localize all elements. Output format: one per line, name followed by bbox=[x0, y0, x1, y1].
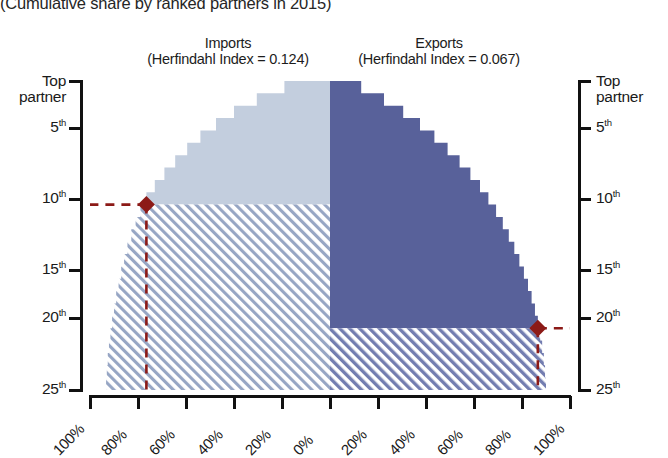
y-tick-right-20 bbox=[579, 317, 591, 320]
x-label-5: 0% bbox=[290, 432, 315, 457]
y-label-left-15: 15th bbox=[0, 261, 66, 277]
x-tick-6 bbox=[377, 396, 380, 409]
x-tick-10 bbox=[569, 396, 572, 409]
y-label-left-10: 10th bbox=[0, 190, 66, 206]
x-tick-1 bbox=[137, 396, 140, 409]
x-label-8: 60% bbox=[434, 427, 465, 458]
chart-subtitle: (Cumulative share by ranked partners in … bbox=[0, 0, 430, 13]
x-label-7: 40% bbox=[386, 427, 417, 458]
imports-area-solid bbox=[146, 81, 330, 205]
plot-svg bbox=[90, 81, 570, 390]
y-tick-left-25 bbox=[69, 389, 81, 392]
exports-title: Exports bbox=[330, 36, 548, 52]
y-tick-left-10 bbox=[69, 198, 81, 201]
x-label-4: 20% bbox=[242, 427, 273, 458]
y-tick-right-25 bbox=[579, 389, 591, 392]
imports-panel-header: Imports (Herfindahl Index = 0.124) bbox=[128, 36, 328, 67]
y-tick-left-15 bbox=[69, 269, 81, 272]
x-tick-4 bbox=[281, 396, 284, 409]
y-tick-left-1 bbox=[69, 80, 81, 83]
y-label-right-5: 5th bbox=[596, 119, 668, 135]
exports-area-hatched bbox=[330, 328, 546, 390]
x-tick-9 bbox=[521, 396, 524, 409]
x-label-0: 100% bbox=[50, 421, 87, 458]
y-label-right-10: 10th bbox=[596, 190, 668, 206]
x-label-9: 80% bbox=[482, 427, 513, 458]
y-tick-right-1 bbox=[579, 80, 591, 83]
x-tick-7 bbox=[425, 396, 428, 409]
x-label-10: 100% bbox=[530, 421, 567, 458]
y-label-right-25: 25th bbox=[596, 381, 668, 397]
y-label-right-15: 15th bbox=[596, 261, 668, 277]
y-tick-right-10 bbox=[579, 198, 591, 201]
y-label-left-5: 5th bbox=[0, 119, 66, 135]
y-label-left-20: 20th bbox=[0, 309, 66, 325]
x-tick-8 bbox=[473, 396, 476, 409]
y-tick-right-5 bbox=[579, 127, 591, 130]
x-label-1: 80% bbox=[98, 427, 129, 458]
y-label-right-1: Toppartner bbox=[596, 73, 668, 104]
x-tick-5 bbox=[329, 396, 332, 409]
x-label-2: 60% bbox=[146, 427, 177, 458]
plot-area bbox=[90, 81, 570, 390]
imports-title: Imports bbox=[128, 36, 328, 52]
exports-panel-header: Exports (Herfindahl Index = 0.067) bbox=[330, 36, 548, 67]
exports-area-solid bbox=[330, 81, 538, 328]
y-label-right-20: 20th bbox=[596, 309, 668, 325]
y-tick-left-20 bbox=[69, 317, 81, 320]
x-tick-0 bbox=[89, 396, 92, 409]
y-tick-right-15 bbox=[579, 269, 591, 272]
x-tick-2 bbox=[185, 396, 188, 409]
imports-herfindahl-index: (Herfindahl Index = 0.124) bbox=[128, 52, 328, 68]
x-tick-3 bbox=[233, 396, 236, 409]
y-tick-left-5 bbox=[69, 127, 81, 130]
y-label-left-1: Toppartner bbox=[0, 73, 66, 104]
imports-area-hatched bbox=[106, 205, 330, 390]
x-label-3: 40% bbox=[194, 427, 225, 458]
exports-herfindahl-index: (Herfindahl Index = 0.067) bbox=[330, 52, 548, 68]
x-label-6: 20% bbox=[338, 427, 369, 458]
y-label-left-25: 25th bbox=[0, 381, 66, 397]
